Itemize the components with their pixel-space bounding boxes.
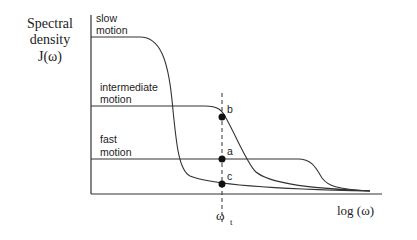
point-a-label: a	[227, 145, 233, 157]
y-axis-label: Spectral density J(ω)	[27, 16, 73, 65]
svg-text:J(ω): J(ω)	[38, 49, 62, 65]
spectral-density-diagram: Spectral density J(ω) slow motion interm…	[0, 0, 417, 240]
point-c	[219, 181, 226, 188]
svg-text:slow: slow	[96, 12, 117, 24]
point-b-label: b	[227, 103, 233, 115]
x-axis-label: log (ω)	[337, 203, 374, 218]
svg-text:motion: motion	[100, 146, 132, 158]
point-c-label: c	[227, 170, 232, 182]
label-intermediate-motion: intermediate motion	[100, 81, 158, 105]
omega-t-label: ω t	[216, 208, 233, 227]
svg-text:motion: motion	[100, 93, 132, 105]
svg-text:intermediate: intermediate	[100, 81, 158, 93]
label-fast-motion: fast motion	[100, 133, 132, 158]
svg-text:ω: ω	[216, 208, 225, 223]
svg-text:fast: fast	[100, 133, 117, 145]
label-slow-motion: slow motion	[96, 12, 128, 36]
point-a	[219, 156, 226, 163]
svg-text:density: density	[30, 32, 70, 47]
svg-text:Spectral: Spectral	[27, 16, 73, 31]
svg-text:motion: motion	[96, 24, 128, 36]
svg-text:t: t	[230, 217, 233, 227]
point-b	[219, 114, 226, 121]
